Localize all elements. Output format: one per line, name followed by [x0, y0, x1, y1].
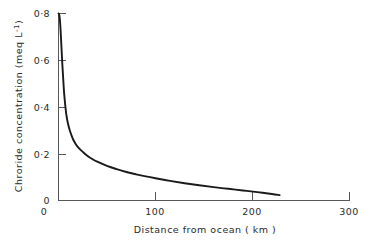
x-tick-label-300: 300 [339, 206, 358, 217]
chart-plot-area: 0·8 0·6 0·4 0·2 0 0 100 200 300 Distance… [0, 0, 370, 241]
y-axis-title-tail: ) [13, 20, 24, 24]
y-axis-title: Chroride concentration (meq L-1) [13, 20, 25, 192]
y-tick-label-0-4: 0·4 [34, 102, 50, 113]
y-axis-ticks [59, 14, 67, 155]
y-axis-title-group: Chroride concentration (meq L-1) [13, 20, 25, 192]
y-tick-label-0-6: 0·6 [34, 55, 50, 66]
x-axis-title: Distance from ocean ( km ) [134, 224, 277, 235]
y-tick-label-0: 0 [44, 195, 50, 206]
x-tick-label-100: 100 [145, 206, 164, 217]
chart-figure: 0·8 0·6 0·4 0·2 0 0 100 200 300 Distance… [0, 0, 370, 241]
y-axis-title-exponent: -1 [13, 24, 21, 32]
y-tick-label-0-8: 0·8 [34, 8, 50, 19]
y-axis-title-main: Chroride concentration (meq L [13, 32, 24, 192]
data-curve-chloride [59, 14, 280, 196]
x-axis-ticks [156, 192, 350, 201]
y-tick-label-0-2: 0·2 [34, 149, 50, 160]
x-tick-label-0: 0 [41, 206, 47, 217]
x-tick-label-200: 200 [242, 206, 261, 217]
